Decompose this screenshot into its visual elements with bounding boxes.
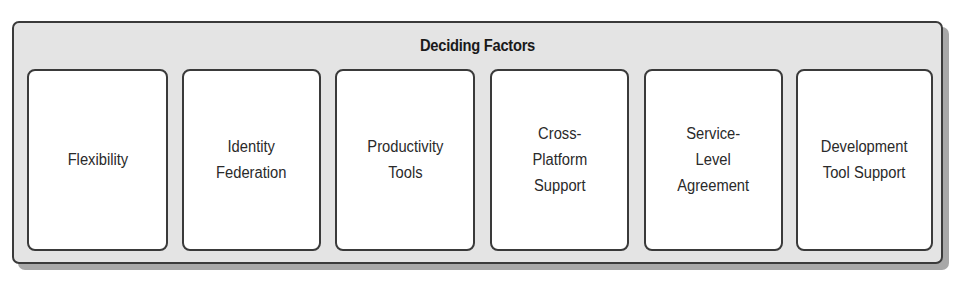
factor-box-productivity-tools: Productivity Tools <box>335 69 475 251</box>
factor-label: Cross- Platform Support <box>532 121 587 199</box>
factor-label: Identity Federation <box>216 134 286 186</box>
factor-label: Service- Level Agreement <box>677 121 749 199</box>
factor-box-cross-platform-support: Cross- Platform Support <box>490 69 629 251</box>
factor-box-identity-federation: Identity Federation <box>182 69 321 251</box>
factor-box-service-level-agreement: Service- Level Agreement <box>644 69 783 251</box>
deciding-factors-container: Deciding Factors Flexibility Identity Fe… <box>12 21 943 264</box>
factor-box-development-tool-support: Development Tool Support <box>796 69 933 251</box>
diagram-title: Deciding Factors <box>51 37 904 55</box>
factor-label: Development Tool Support <box>821 134 908 186</box>
factor-label: Productivity Tools <box>367 134 443 186</box>
factor-label: Flexibility <box>67 147 128 173</box>
factor-box-flexibility: Flexibility <box>27 69 168 251</box>
